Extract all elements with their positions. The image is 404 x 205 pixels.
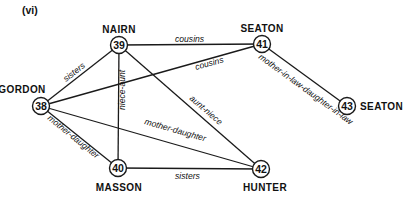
node-name-hunter: HUNTER [243, 182, 287, 193]
edge-label-gordon-hunter: mother-daughter [143, 116, 208, 143]
edge-label-nairn-masson: niece-aunt [117, 69, 127, 110]
node-name-masson: MASSON [96, 182, 142, 193]
edge-seaton-seaton [262, 44, 347, 106]
node-name-gordon: GORDON [0, 84, 46, 95]
node-gordon: 38 GORDON [0, 84, 50, 115]
edge-label-gordon-masson: mother-daughter [46, 113, 102, 161]
node-number-43: 43 [341, 100, 353, 112]
node-number-39: 39 [113, 39, 125, 51]
edge-labels: sisters cousins cousins niece-aunt aunt-… [46, 34, 356, 181]
node-name-seaton: SEATON [240, 23, 283, 34]
kinship-diagram: (vi) sisters cousins cousins niece-aunt … [0, 0, 404, 205]
node-masson: 40 MASSON [96, 160, 142, 194]
node-number-40: 40 [112, 162, 124, 174]
panel-label: (vi) [22, 4, 38, 16]
edge-label-masson-hunter: sisters [175, 171, 201, 181]
node-seaton-43: 43 SEATON [339, 98, 404, 115]
node-nairn: 39 NAIRN [102, 24, 136, 54]
node-number-38: 38 [35, 100, 47, 112]
node-name-nairn: NAIRN [102, 24, 136, 35]
node-number-42: 42 [255, 163, 267, 175]
node-number-41: 41 [256, 38, 268, 50]
edge-label-nairn-seaton: cousins [175, 34, 205, 44]
edge-label-gordon-seaton: cousins [194, 54, 225, 72]
edge-label-seaton-seaton: mother-in-law-daughter-in-law [257, 52, 356, 127]
edge-masson-hunter [118, 168, 261, 169]
edge-nairn-seaton [119, 44, 262, 45]
node-name-seaton-43: SEATON [360, 101, 403, 112]
edge-gordon-nairn [41, 45, 119, 106]
